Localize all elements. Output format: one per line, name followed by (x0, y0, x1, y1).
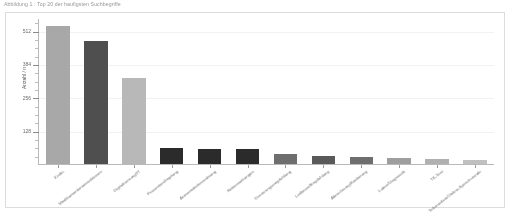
x-axis-tick (323, 165, 324, 168)
x-axis-tick-label: Dosierungsempfehlung (254, 169, 293, 201)
x-axis-tick (210, 165, 211, 168)
screenshot-root: Abbildung 1 : Top 20 der haufigsten Such… (0, 0, 510, 222)
x-axis-tick-label: Labor/Diagnostik (377, 169, 406, 193)
x-axis-tick-label: TK-Test (429, 169, 444, 182)
bar[interactable] (350, 157, 374, 164)
bar[interactable] (312, 156, 336, 164)
x-axis-tick-label: Arzneimittelverordnung (178, 169, 217, 201)
x-axis-tick (248, 165, 249, 168)
bar[interactable] (463, 160, 487, 164)
y-axis-tick-label: 384 (7, 62, 31, 67)
bar[interactable] (274, 154, 298, 164)
x-axis-tick (285, 165, 286, 168)
y-axis-tick-label: 512 (7, 29, 31, 34)
bar[interactable] (46, 26, 70, 164)
x-axis-tick-label: Pravention/Impfung (146, 169, 179, 196)
bar[interactable] (198, 149, 222, 164)
bars-layer (39, 19, 494, 164)
bar[interactable] (122, 78, 146, 164)
x-axis-tick-label: Leitlinien/Empfehlung (294, 169, 330, 199)
x-axis-tick (96, 165, 97, 168)
x-axis-tick-label: Krebs (53, 169, 65, 180)
x-axis-tick (134, 165, 135, 168)
y-axis-tick-labels: 128256384512 (6, 13, 33, 165)
x-axis-tick-label: Medikamenteninteraktionen (57, 169, 103, 206)
y-axis-title: Anzahl / n (21, 58, 27, 98)
bar[interactable] (387, 158, 411, 164)
x-axis-tick-label: Digitalisierung/IT (112, 169, 141, 193)
x-axis-tick (58, 165, 59, 168)
x-axis-tick (475, 165, 476, 168)
x-axis-tick-label: Nebenwirkungen (226, 169, 255, 193)
x-axis-tick (172, 165, 173, 168)
bar[interactable] (160, 148, 184, 164)
document-heading: Abbildung 1 : Top 20 der haufigsten Such… (4, 0, 304, 9)
bar-chart-figure: 128256384512 Anzahl / n KrebsMedikamente… (5, 12, 505, 208)
x-axis-tick (399, 165, 400, 168)
bar[interactable] (84, 41, 108, 164)
x-axis-tick (437, 165, 438, 168)
x-axis-tick-label: Abrechnung/Kodierung (330, 169, 368, 201)
y-axis-tick-label: 128 (7, 129, 31, 134)
y-axis-tick-label: 256 (7, 96, 31, 101)
x-axis-tick-labels: KrebsMedikamenteninteraktionenDigitalisi… (39, 169, 494, 207)
x-axis-tick (361, 165, 362, 168)
bar[interactable] (236, 149, 260, 164)
bar[interactable] (425, 159, 449, 164)
